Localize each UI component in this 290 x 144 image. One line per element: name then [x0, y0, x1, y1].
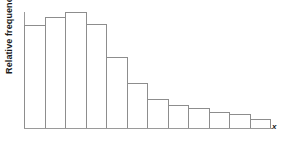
bar-group — [24, 12, 270, 128]
histogram-bar — [229, 114, 251, 128]
histogram-bar — [65, 12, 87, 128]
histogram-bar — [188, 108, 210, 128]
histogram-figure: Relative frequency x — [0, 0, 290, 144]
y-axis-title: Relative frequency — [4, 0, 14, 93]
histogram-bar — [168, 105, 190, 128]
histogram-bar — [106, 57, 128, 128]
histogram-bar — [86, 24, 108, 128]
histogram-bar — [250, 119, 272, 128]
histogram-bar — [127, 83, 149, 128]
x-axis-title: x — [272, 122, 276, 131]
plot-area — [24, 12, 270, 128]
histogram-bar — [209, 112, 231, 128]
histogram-bar — [147, 99, 169, 128]
histogram-bar — [24, 25, 46, 128]
x-axis-line — [24, 128, 272, 129]
histogram-bar — [45, 17, 67, 128]
